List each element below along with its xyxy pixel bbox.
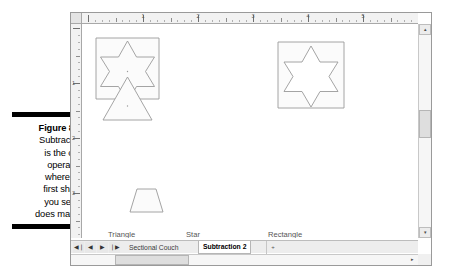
horizontal-scrollbar[interactable]: ▸ xyxy=(71,254,418,265)
ruler-tick-v xyxy=(78,76,80,77)
ruler-tick-h xyxy=(191,20,192,22)
ruler-tick-h xyxy=(384,20,385,22)
ruler-tick-v xyxy=(76,166,80,167)
ruler-tick-v xyxy=(78,159,80,160)
ruler-tick-h xyxy=(274,20,275,22)
ruler-tick-h xyxy=(294,20,295,22)
ruler-tick-v xyxy=(78,104,80,105)
ruler-tick-v xyxy=(78,97,80,98)
ruler-tick-v xyxy=(73,28,80,29)
ruler-tick-v xyxy=(76,221,80,222)
vertical-scrollbar[interactable]: ▴ ▾ xyxy=(418,24,431,238)
ruler-tick-h xyxy=(349,20,350,22)
ruler-tick-h xyxy=(287,20,288,22)
add-sheet-button[interactable]: + xyxy=(266,241,279,254)
ruler-tick-h xyxy=(122,20,123,22)
ruler-tick-v xyxy=(78,186,80,187)
ruler-tick-h xyxy=(411,20,412,22)
next-sheet-icon[interactable]: ▶ xyxy=(97,242,108,253)
ruler-tick-h xyxy=(88,15,89,22)
ruler-tick-h xyxy=(177,20,178,22)
ruler-tick-v xyxy=(78,227,80,228)
ruler-tick-v xyxy=(78,131,80,132)
ruler-tick-h xyxy=(377,20,378,22)
scroll-up-icon[interactable]: ▴ xyxy=(419,24,431,35)
ruler-tick-h xyxy=(315,20,316,22)
ruler-tick-h xyxy=(95,20,96,22)
ruler-number-v: 3 xyxy=(72,190,75,196)
ruler-tick-v xyxy=(78,117,80,118)
ruler-tick-v xyxy=(78,172,80,173)
ruler-tick-v xyxy=(78,124,80,125)
shape-label-rectangle: Rectangle xyxy=(268,230,302,238)
ruler-number-v: 2 xyxy=(72,135,75,141)
ruler-tick-v xyxy=(78,62,80,63)
ruler-corner-box[interactable] xyxy=(71,13,82,24)
ruler-tick-v xyxy=(76,56,80,57)
ruler-tick-h xyxy=(136,20,137,22)
sheet-tab-subtraction-2[interactable]: Subtraction 2 xyxy=(198,241,251,254)
ruler-number-h: 3 xyxy=(251,13,254,20)
previous-sheet-icon[interactable]: ◀ xyxy=(85,242,96,253)
ruler-tick-v xyxy=(78,214,80,215)
ruler-tick-h xyxy=(239,20,240,22)
drawing-application-window: 12345 123 Triangle Star Rectang xyxy=(70,12,432,266)
ruler-tick-v xyxy=(78,90,80,91)
canvas-shapes xyxy=(82,24,418,238)
ruler-tick-h xyxy=(219,20,220,22)
last-sheet-icon[interactable]: ❘▶ xyxy=(109,242,120,253)
ruler-tick-h xyxy=(129,20,130,22)
ruler-tick-v xyxy=(78,145,80,146)
ruler-tick-h xyxy=(150,20,151,22)
shape-label-triangle: Triangle xyxy=(108,230,135,238)
ruler-tick-h xyxy=(109,20,110,22)
ruler-tick-h xyxy=(246,20,247,22)
scroll-down-icon[interactable]: ▾ xyxy=(419,227,431,238)
ruler-number-h: 5 xyxy=(361,13,364,20)
ruler-number-h: 4 xyxy=(306,13,309,20)
ruler-tick-h xyxy=(267,20,268,22)
ruler-tick-v xyxy=(78,152,80,153)
shape-center-mark-triangle xyxy=(127,105,128,106)
ruler-tick-h xyxy=(281,18,282,22)
ruler-tick-v xyxy=(78,69,80,70)
ruler-tick-h xyxy=(329,20,330,22)
ruler-tick-h xyxy=(212,20,213,22)
ruler-tick-h xyxy=(205,20,206,22)
shape-label-star: Star xyxy=(186,230,200,238)
ruler-tick-h xyxy=(116,18,117,22)
ruler-tick-h xyxy=(164,20,165,22)
ruler-tick-h xyxy=(322,20,323,22)
shape-rectangle-minus-star xyxy=(278,42,344,108)
ruler-tick-v xyxy=(78,42,80,43)
ruler-tick-h xyxy=(102,20,103,22)
ruler-tick-v xyxy=(78,234,80,235)
ruler-tick-h xyxy=(397,20,398,22)
ruler-tick-v xyxy=(76,111,80,112)
ruler-tick-h xyxy=(342,20,343,22)
sheet-bottom-bar: ◀❘ ◀ ▶ ❘▶ Sectional Couch Subtraction 2 … xyxy=(71,238,431,265)
scroll-right-icon[interactable]: ▸ xyxy=(407,255,418,265)
ruler-tick-h xyxy=(356,20,357,22)
ruler-tick-v xyxy=(78,200,80,201)
vertical-scrollbar-thumb[interactable] xyxy=(419,110,431,138)
drawing-canvas[interactable]: Triangle Star Rectangle xyxy=(82,24,418,238)
ruler-tick-h xyxy=(370,20,371,22)
first-sheet-icon[interactable]: ◀❘ xyxy=(73,242,84,253)
horizontal-ruler[interactable]: 12345 xyxy=(82,13,418,24)
ruler-number-h: 2 xyxy=(196,13,199,20)
horizontal-scrollbar-thumb[interactable] xyxy=(115,255,189,265)
sheet-tab-sectional-couch[interactable]: Sectional Couch xyxy=(125,241,183,254)
ruler-tick-h xyxy=(232,20,233,22)
shape-trapezoid-result xyxy=(130,189,163,212)
scrollbar-corner-box xyxy=(418,254,431,265)
ruler-tick-h xyxy=(260,20,261,22)
vertical-ruler[interactable]: 123 xyxy=(71,24,82,238)
ruler-tick-v xyxy=(78,49,80,50)
ruler-tick-v xyxy=(78,35,80,36)
ruler-tick-h xyxy=(301,20,302,22)
ruler-number-v: 1 xyxy=(72,80,75,86)
ruler-tick-h xyxy=(171,18,172,22)
ruler-tick-h xyxy=(184,20,185,22)
ruler-number-h: 1 xyxy=(141,13,144,20)
